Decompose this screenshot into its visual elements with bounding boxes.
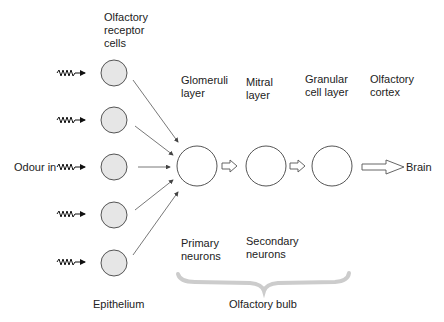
- receptor-cells: [101, 60, 127, 276]
- receptor-cell: [101, 60, 127, 86]
- odour-squiggles: [57, 70, 85, 265]
- secondary-neurons-label: Secondary neurons: [246, 235, 299, 261]
- receptor-cells-label: Olfactory receptor cells: [104, 11, 148, 50]
- granular-circle: [312, 146, 352, 186]
- glomeruli-circle: [177, 146, 217, 186]
- granular-label: Granular cell layer: [305, 73, 348, 99]
- neuron-layers: [177, 146, 352, 186]
- squiggle-icon: [57, 70, 85, 76]
- receptor-cell: [101, 250, 127, 276]
- olfactory-pathway-diagram: [0, 0, 444, 322]
- cortex-label: Olfactory cortex: [370, 73, 414, 99]
- receptor-cell: [101, 107, 127, 133]
- olfactory-bulb-label: Olfactory bulb: [229, 298, 297, 311]
- brain-label: Brain: [406, 161, 432, 174]
- odour-in-label: Odour in: [14, 161, 56, 174]
- squiggle-icon: [57, 117, 85, 123]
- hollow-arrow-icon: [290, 160, 305, 172]
- squiggle-icon: [57, 211, 85, 217]
- epithelium-label: Epithelium: [93, 298, 144, 311]
- big-hollow-arrow-icon: [362, 160, 404, 174]
- primary-neurons-label: Primary neurons: [181, 237, 221, 263]
- converging-arrows: [133, 80, 178, 255]
- hollow-arrow-icon: [222, 160, 237, 172]
- receptor-cell: [101, 202, 127, 228]
- squiggle-icon: [57, 164, 85, 170]
- squiggle-icon: [57, 259, 85, 265]
- mitral-circle: [246, 146, 286, 186]
- mitral-label: Mitral layer: [246, 76, 273, 102]
- olfactory-bulb-brace: [178, 273, 349, 291]
- glomeruli-label: Glomeruli layer: [181, 74, 228, 100]
- receptor-cell: [101, 154, 127, 180]
